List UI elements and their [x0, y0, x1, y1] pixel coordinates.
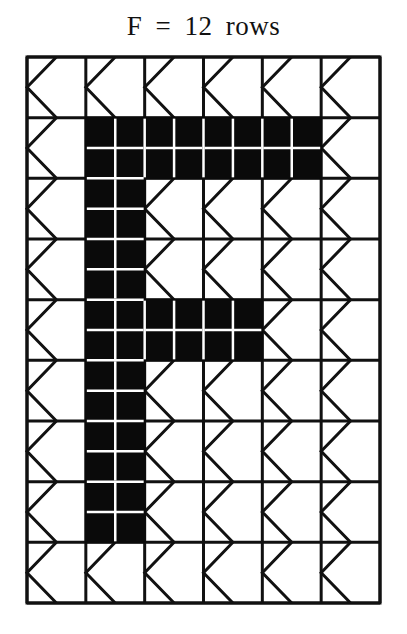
chevron-cell-icon — [262, 421, 291, 482]
chevron-cell-icon — [204, 239, 233, 300]
chevron-cell-icon — [262, 239, 291, 300]
chevron-cell-icon — [27, 482, 56, 543]
chevron-cell-icon — [321, 57, 350, 118]
chevron-cell-icon — [27, 178, 56, 239]
chevron-cell-icon — [262, 57, 291, 118]
chevron-cell-icon — [321, 178, 350, 239]
chevron-cell-icon — [204, 421, 233, 482]
chevron-cell-icon — [321, 239, 350, 300]
chevron-cell-icon — [27, 57, 56, 118]
chevron-cell-icon — [204, 57, 233, 118]
chevron-cell-icon — [262, 482, 291, 543]
chevron-cell-icon — [27, 360, 56, 421]
chevron-cell-icon — [321, 360, 350, 421]
chevron-cell-icon — [27, 300, 56, 361]
letter-grid — [0, 0, 407, 634]
chevron-cell-icon — [86, 57, 115, 118]
chevron-cell-icon — [145, 57, 174, 118]
chevron-cell-icon — [262, 300, 291, 361]
chevron-cell-icon — [204, 178, 233, 239]
chevron-cell-icon — [86, 542, 115, 603]
chevron-cell-icon — [145, 421, 174, 482]
chevron-cell-icon — [321, 482, 350, 543]
chevron-cell-icon — [321, 542, 350, 603]
chevron-cell-icon — [204, 482, 233, 543]
chevron-cell-icon — [204, 542, 233, 603]
chevron-cell-icon — [145, 542, 174, 603]
chevron-cell-icon — [145, 360, 174, 421]
chevron-cell-icon — [262, 360, 291, 421]
chevron-cell-icon — [145, 178, 174, 239]
chevron-cell-icon — [262, 178, 291, 239]
chevron-cell-icon — [145, 482, 174, 543]
chevron-cell-icon — [27, 421, 56, 482]
chevron-cell-icon — [27, 239, 56, 300]
chevron-cell-icon — [321, 118, 350, 179]
chevron-cell-icon — [27, 542, 56, 603]
chevron-cell-icon — [145, 239, 174, 300]
chevron-cell-icon — [27, 118, 56, 179]
chevron-cell-icon — [321, 421, 350, 482]
chevron-cell-icon — [204, 360, 233, 421]
chevron-cell-icon — [262, 542, 291, 603]
chevron-cell-icon — [321, 300, 350, 361]
